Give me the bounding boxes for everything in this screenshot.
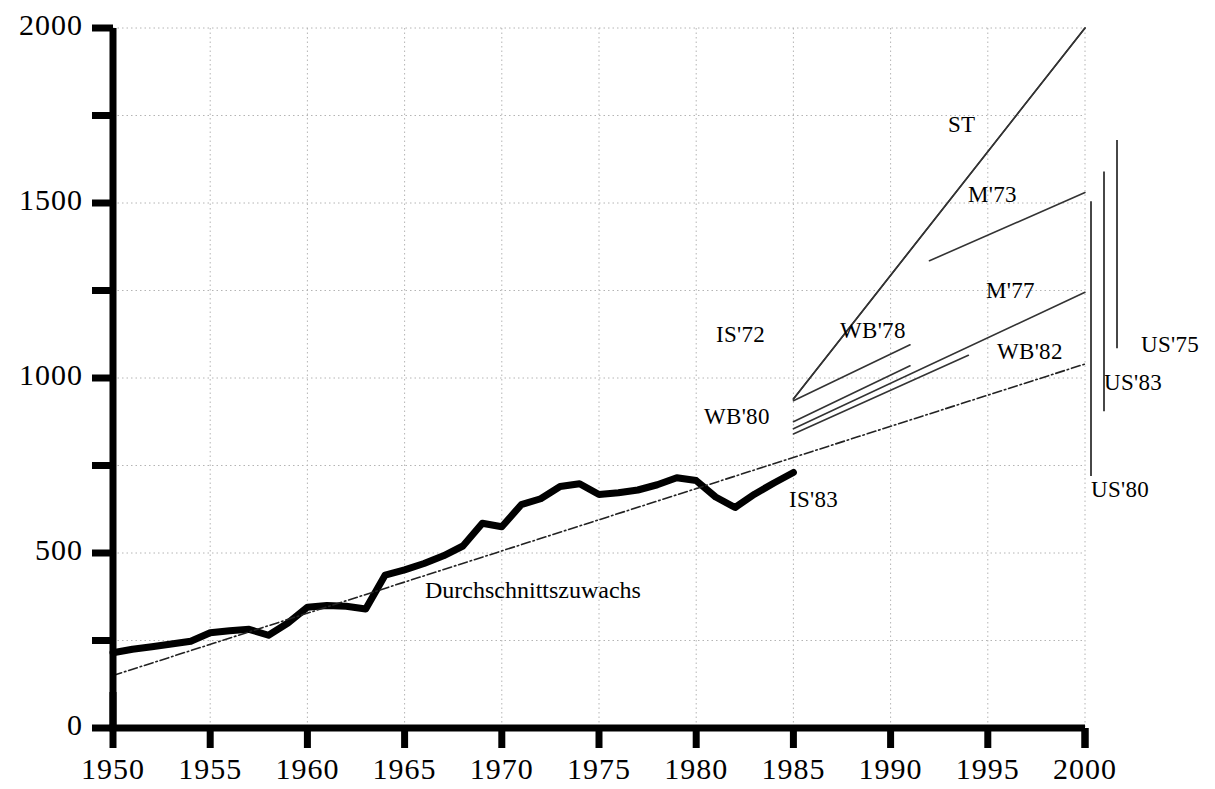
series-line-wb78: [793, 345, 910, 401]
y-axis-label-2000: 2000: [19, 8, 83, 42]
annotation-wb80: WB'80: [704, 404, 770, 430]
annotation-durchschnittszuwachs: Durchschnittszuwachs: [425, 577, 641, 604]
annotation-is83: IS'83: [789, 487, 838, 513]
x-axis-label-1985: 1985: [750, 752, 836, 786]
series-line-is83: [113, 473, 793, 653]
x-axis-label-1960: 1960: [264, 752, 350, 786]
annotation-wb82: WB'82: [997, 339, 1063, 365]
annotation-st: ST: [948, 112, 975, 138]
chart-root: 0500100015002000 19501955196019651970197…: [0, 0, 1215, 789]
axes-group: [110, 28, 1086, 728]
x-axis-label-1975: 1975: [556, 752, 642, 786]
range-bars-group: [1091, 140, 1117, 476]
y-axis-label-0: 0: [67, 708, 83, 742]
x-axis-label-1995: 1995: [945, 752, 1031, 786]
y-axis-label-500: 500: [35, 533, 83, 567]
y-axis-label-1000: 1000: [19, 358, 83, 392]
x-axis-label-1990: 1990: [848, 752, 934, 786]
series-line-wb80: [793, 366, 910, 422]
chart-plot-area: [0, 0, 1215, 789]
annotation-m73: M'73: [968, 182, 1017, 208]
annotation-wb78: WB'78: [840, 318, 906, 344]
annotation-us80: US'80: [1091, 477, 1149, 503]
annotation-us75: US'75: [1141, 332, 1199, 358]
x-axis-label-1970: 1970: [459, 752, 545, 786]
annotation-us83: US'83: [1104, 370, 1162, 396]
y-axis-label-1500: 1500: [19, 183, 83, 217]
x-axis-label-1980: 1980: [653, 752, 739, 786]
annotation-is72: IS'72: [716, 322, 765, 348]
x-axis-label-1950: 1950: [70, 752, 156, 786]
annotation-m77: M'77: [986, 278, 1035, 304]
x-axis-label-2000: 2000: [1042, 752, 1128, 786]
x-axis-label-1965: 1965: [362, 752, 448, 786]
series-line-wb82: [793, 355, 968, 434]
axis-ticks-group: [92, 28, 1085, 748]
gridlines-group: [113, 28, 1085, 728]
x-axis-label-1955: 1955: [167, 752, 253, 786]
